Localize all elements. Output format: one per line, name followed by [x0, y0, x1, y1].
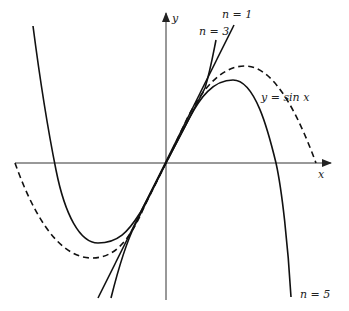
y-axis-label: y	[171, 12, 179, 25]
n1-label: n = 1	[222, 8, 252, 21]
n5-label: n = 5	[300, 288, 330, 301]
sin-label: y = sin x	[260, 91, 310, 104]
taylor-diagram: y x y = sin x n = 1 n = 3 n = 5	[0, 0, 349, 311]
n3-label: n = 3	[199, 25, 229, 38]
x-axis-label: x	[318, 168, 325, 181]
